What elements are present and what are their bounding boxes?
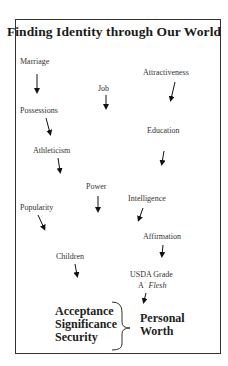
arrow-icon: [75, 264, 77, 275]
need-security: Security: [55, 331, 117, 344]
needs-list: Acceptance Significance Security: [55, 305, 117, 344]
arrow-icon: [58, 158, 60, 171]
arrow-icon: [139, 208, 143, 219]
arrow-icon: [162, 245, 163, 255]
arrow-icon: [38, 215, 44, 228]
arrow-icon: [144, 293, 146, 301]
arrow-icon: [162, 151, 164, 163]
arrow-icon: [171, 82, 175, 99]
arrow-icon: [46, 118, 50, 133]
personal-worth: Personal Worth: [140, 312, 185, 338]
